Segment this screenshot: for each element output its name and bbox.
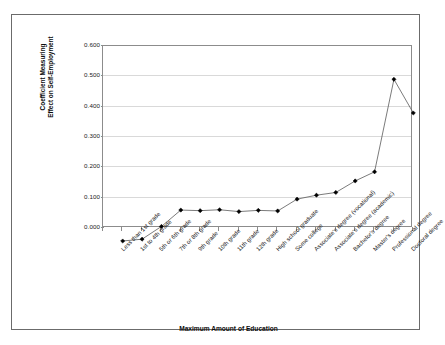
data-series-layer: Less than 1st grade: 0.0001st to 4th gra…	[12, 15, 445, 345]
data-point-marker: Bachelor's degree: 0.198	[353, 179, 357, 183]
series-line	[123, 79, 414, 241]
data-point-marker: 12th grade: 0.101	[256, 208, 260, 212]
figure-frame: Coefficient Measuring Effect on Self-Emp…	[11, 14, 420, 330]
data-point-marker: Less than 1st grade: 0.000	[121, 239, 125, 243]
data-point-marker: 9th grade: 0.100	[198, 209, 202, 213]
data-point-marker: 10th grade: 0.103	[217, 208, 221, 212]
data-point-marker: Associate's degree (academic): 0.160	[334, 190, 338, 194]
data-point-marker: Associate's degree (vocational): 0.151	[314, 193, 318, 197]
data-point-marker: Doctoral degree: 0.422	[411, 111, 415, 115]
x-axis-title: Maximum Amount of Education	[12, 325, 445, 332]
data-point-marker: Some college: 0.138	[295, 197, 299, 201]
data-point-marker: Professional degree: 0.533	[392, 77, 396, 81]
data-point-marker: 11th grade: 0.097	[237, 209, 241, 213]
data-point-marker: Master's degree: 0.228	[372, 170, 376, 174]
data-point-marker: High school graduate: 0.099	[276, 209, 280, 213]
chart-area: Coefficient Measuring Effect on Self-Emp…	[12, 15, 419, 329]
data-point-marker: 1st to 4th grade: 0.006	[140, 237, 144, 241]
